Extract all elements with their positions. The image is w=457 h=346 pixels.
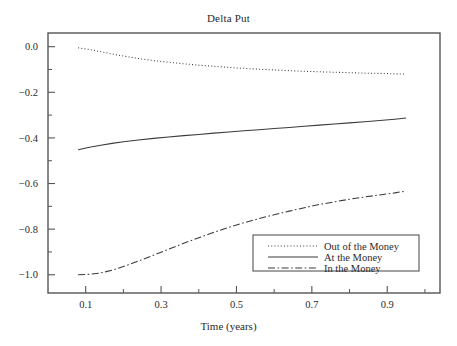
y-tick-label: −0.4 (19, 133, 39, 144)
x-axis-tick-labels: 0.10.30.50.70.9 (79, 299, 394, 310)
series-line-0 (78, 48, 406, 74)
y-axis-ticks (48, 47, 55, 275)
y-tick-label: −0.8 (19, 224, 38, 235)
legend-label-0: Out of the Money (324, 241, 400, 252)
x-tick-label: 0.9 (381, 299, 394, 310)
y-tick-label: −0.6 (19, 178, 38, 189)
plot-area: 0.0−0.2−0.4−0.6−0.8−1.0 0.10.30.50.70.9 … (0, 0, 457, 346)
y-tick-label: −0.2 (19, 87, 38, 98)
x-tick-label: 0.1 (79, 299, 92, 310)
legend-label-2: In the Money (324, 263, 381, 274)
legend-label-1: At the Money (324, 252, 383, 263)
chart-figure: Delta Put 0.0−0.2−0.4−0.6−0.8−1.0 0.10.3… (0, 0, 457, 346)
x-axis-label: Time (years) (0, 320, 457, 332)
x-tick-label: 0.3 (155, 299, 168, 310)
x-tick-label: 0.5 (230, 299, 243, 310)
y-tick-label: 0.0 (25, 41, 38, 52)
series-line-1 (78, 118, 406, 150)
legend: Out of the MoneyAt the MoneyIn the Money (253, 235, 419, 274)
x-tick-label: 0.7 (305, 299, 318, 310)
y-axis-tick-labels: 0.0−0.2−0.4−0.6−0.8−1.0 (19, 41, 39, 280)
x-axis-ticks (86, 286, 425, 293)
y-tick-label: −1.0 (19, 269, 38, 280)
